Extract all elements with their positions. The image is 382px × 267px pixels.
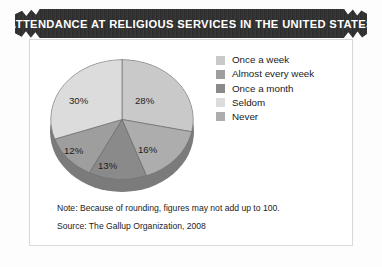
- slice-label-once-a-month: 13%: [98, 160, 117, 171]
- pie-top-face: [50, 59, 194, 180]
- pie-graphic: 28% 16% 13% 12% 30%: [50, 59, 194, 191]
- legend-label: Once a month: [232, 84, 294, 94]
- legend-swatch-icon: [216, 112, 225, 121]
- legend-swatch-icon: [216, 98, 225, 107]
- footnote-note: Note: Because of rounding, figures may n…: [57, 204, 347, 213]
- page-background: 28% 16% 13% 12% 30% Once a week Almost e…: [0, 0, 382, 267]
- pie-slice: [122, 60, 193, 132]
- legend-swatch-icon: [216, 56, 225, 65]
- legend-item-almost-every-week: Almost every week: [216, 67, 346, 81]
- pie-chart: 28% 16% 13% 12% 30%: [42, 53, 222, 201]
- legend-swatch-icon: [216, 84, 225, 93]
- legend-item-seldom: Seldom: [216, 96, 346, 110]
- slice-label-never: 16%: [138, 144, 157, 155]
- slice-label-once-a-week: 28%: [135, 95, 154, 106]
- legend-item-once-a-month: Once a month: [216, 81, 346, 95]
- legend-swatch-icon: [216, 70, 225, 79]
- footnotes: Note: Because of rounding, figures may n…: [57, 204, 347, 239]
- slice-label-seldom: 30%: [69, 95, 88, 106]
- title-banner: ATTENDANCE AT RELIGIOUS SERVICES IN THE …: [15, 9, 367, 38]
- legend-item-never: Never: [216, 110, 346, 124]
- footnote-source: Source: The Gallup Organization, 2008: [57, 222, 347, 231]
- chart-card: 28% 16% 13% 12% 30% Once a week Almost e…: [29, 39, 353, 246]
- page-title: ATTENDANCE AT RELIGIOUS SERVICES IN THE …: [8, 18, 374, 30]
- legend: Once a week Almost every week Once a mon…: [216, 53, 346, 124]
- legend-item-once-a-week: Once a week: [216, 53, 346, 67]
- pie-slices-svg: [50, 59, 194, 180]
- slice-label-almost-every-week: 12%: [64, 145, 83, 156]
- legend-label: Never: [232, 112, 258, 122]
- legend-label: Almost every week: [232, 69, 314, 79]
- legend-label: Once a week: [232, 55, 289, 65]
- legend-label: Seldom: [232, 98, 265, 108]
